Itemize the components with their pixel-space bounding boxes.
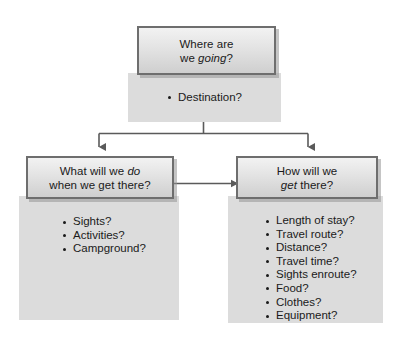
right-heading-line1: How will we: [277, 165, 338, 177]
list-item: Sights enroute?: [265, 268, 357, 282]
right-bullet-7: Equipment?: [276, 309, 337, 321]
list-item: Length of stay?: [265, 214, 357, 228]
root-node-heading: Where are we going?: [175, 37, 237, 65]
right-heading-line2-italic: get: [281, 179, 297, 191]
root-bullet-destination: Destination?: [167, 90, 242, 104]
root-heading-line1: Where are: [179, 38, 233, 50]
right-bullet-3: Travel time?: [276, 255, 339, 267]
left-branch-node-box[interactable]: What will we do when we get there?: [26, 156, 174, 199]
list-item: Travel time?: [265, 255, 357, 269]
left-branch-heading: What will we do when we get there?: [45, 164, 154, 192]
list-item: Sights?: [62, 215, 146, 229]
list-item: Travel route?: [265, 228, 357, 242]
left-bullet-2: Campground?: [73, 242, 146, 254]
list-item: Activities?: [62, 229, 146, 243]
right-bullet-6: Clothes?: [276, 296, 321, 308]
left-heading-line1-italic: do: [127, 165, 140, 177]
right-bullet-0: Length of stay?: [276, 214, 355, 226]
list-item: Equipment?: [265, 309, 357, 323]
root-heading-line2-plain: we: [180, 52, 198, 64]
root-heading-line2-italic: going: [198, 52, 226, 64]
right-bullet-2: Distance?: [276, 241, 327, 253]
root-heading-line2-tail: ?: [226, 52, 232, 64]
left-heading-line2: when we get there?: [49, 179, 150, 191]
root-bullet-label: Destination?: [178, 91, 242, 103]
right-branch-bullet-list: Length of stay? Travel route? Distance? …: [265, 214, 357, 323]
left-heading-line1-plain: What will we: [60, 165, 128, 177]
right-heading-line2-tail: there?: [297, 179, 333, 191]
left-bullet-1: Activities?: [73, 229, 125, 241]
root-node-box[interactable]: Where are we going?: [137, 26, 276, 75]
right-bullet-5: Food?: [276, 282, 309, 294]
list-item: Distance?: [265, 241, 357, 255]
planning-tree-diagram: Where are we going? Destination? What wi…: [0, 0, 401, 352]
right-bullet-4: Sights enroute?: [276, 268, 357, 280]
right-bullet-1: Travel route?: [276, 228, 343, 240]
left-branch-bullet-list: Sights? Activities? Campground?: [62, 215, 146, 256]
list-item: Clothes?: [265, 296, 357, 310]
right-branch-node-box[interactable]: How will we get there?: [236, 156, 378, 199]
right-branch-heading: How will we get there?: [273, 164, 342, 192]
left-bullet-0: Sights?: [73, 215, 111, 227]
list-item: Food?: [265, 282, 357, 296]
list-item: Campground?: [62, 242, 146, 256]
